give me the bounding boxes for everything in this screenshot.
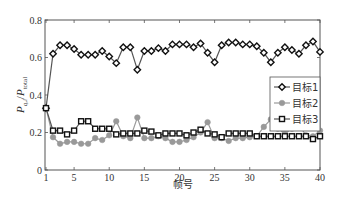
- data-point: [198, 127, 203, 132]
- y-tick-label: 0: [37, 165, 42, 176]
- data-point: [261, 124, 267, 130]
- data-point: [170, 139, 176, 145]
- data-point: [184, 133, 189, 138]
- x-tick-label: 5: [72, 172, 77, 183]
- data-point: [50, 134, 56, 140]
- data-point: [232, 39, 238, 45]
- legend-label: 目标1: [292, 82, 318, 93]
- data-point: [92, 51, 98, 57]
- y-label-sub2: total: [21, 77, 29, 89]
- data-point: [134, 66, 140, 72]
- data-point: [310, 137, 315, 142]
- data-point: [128, 131, 133, 136]
- data-point: [100, 126, 105, 131]
- data-point: [212, 132, 217, 137]
- data-point: [120, 44, 126, 50]
- data-point: [155, 45, 161, 51]
- data-point: [44, 106, 49, 111]
- data-point: [106, 133, 112, 139]
- legend-label: 目标3: [292, 114, 318, 125]
- data-point: [282, 134, 287, 139]
- data-point: [85, 141, 91, 147]
- data-point: [99, 137, 105, 143]
- data-point: [148, 48, 154, 54]
- x-tick-label: 10: [104, 172, 114, 183]
- x-tick-label: 15: [139, 172, 149, 183]
- data-point: [296, 134, 301, 139]
- data-point: [254, 134, 259, 139]
- data-point: [107, 126, 112, 131]
- data-point: [183, 41, 189, 47]
- data-point: [303, 134, 308, 139]
- data-point: [93, 126, 98, 131]
- data-point: [170, 131, 175, 136]
- data-point: [135, 131, 140, 136]
- data-point: [240, 131, 245, 136]
- data-point: [86, 119, 91, 124]
- data-point: [225, 39, 231, 45]
- data-point: [135, 115, 141, 121]
- data-point: [58, 128, 63, 133]
- data-point: [57, 141, 63, 147]
- data-point: [141, 48, 147, 54]
- x-axis-label: 帧号: [173, 178, 193, 190]
- data-point: [205, 131, 210, 136]
- legend: 目标1目标2目标3: [270, 77, 320, 131]
- data-point: [71, 139, 77, 145]
- data-point: [177, 139, 183, 145]
- x-tick-label: 35: [280, 172, 290, 183]
- data-point: [205, 119, 211, 125]
- data-point: [261, 134, 266, 139]
- legend-marker: [280, 117, 285, 122]
- data-point: [142, 135, 148, 141]
- data-point: [226, 138, 232, 144]
- data-point: [92, 135, 98, 141]
- data-point: [226, 131, 231, 136]
- data-point: [218, 42, 224, 48]
- data-point: [190, 44, 196, 50]
- data-point: [289, 134, 294, 139]
- data-point: [64, 42, 70, 48]
- data-point: [149, 135, 155, 141]
- data-point: [127, 44, 133, 50]
- data-point: [156, 133, 161, 138]
- svg-text:Pq,i/Ptotal: Pq,i/Ptotal: [14, 77, 29, 114]
- y-tick-label: 0.4: [30, 90, 43, 101]
- data-point: [191, 130, 196, 135]
- data-point: [176, 41, 182, 47]
- x-tick-label: 40: [315, 172, 325, 183]
- data-point: [121, 131, 126, 136]
- legend-label: 目标2: [292, 98, 318, 109]
- line-chart: 00.20.40.60.8 1510152025303540 帧号 Pq,i/P…: [0, 0, 339, 203]
- data-point: [177, 131, 182, 136]
- legend-marker: [279, 100, 285, 106]
- x-tick-label: 1: [44, 172, 49, 183]
- y-label-sub1: q,i: [21, 99, 29, 106]
- y-tick-label: 0.8: [30, 15, 43, 26]
- data-point: [219, 135, 224, 140]
- data-point: [247, 131, 252, 136]
- data-point: [240, 41, 246, 47]
- data-point: [51, 128, 56, 133]
- data-point: [318, 134, 323, 139]
- data-point: [233, 131, 238, 136]
- x-tick-label: 25: [210, 172, 220, 183]
- data-point: [113, 118, 119, 124]
- data-point: [85, 51, 91, 57]
- data-point: [142, 128, 147, 133]
- data-point: [64, 139, 70, 145]
- data-point: [149, 129, 154, 134]
- data-point: [289, 47, 295, 53]
- data-point: [247, 41, 253, 47]
- y-tick-label: 0.6: [30, 52, 43, 63]
- data-point: [78, 141, 84, 147]
- data-point: [163, 131, 168, 136]
- data-point: [65, 132, 70, 137]
- x-tick-label: 30: [245, 172, 255, 183]
- data-point: [114, 132, 119, 137]
- data-point: [79, 119, 84, 124]
- data-point: [275, 134, 280, 139]
- data-point: [268, 134, 273, 139]
- y-tick-label: 0.2: [30, 127, 43, 138]
- data-point: [72, 128, 77, 133]
